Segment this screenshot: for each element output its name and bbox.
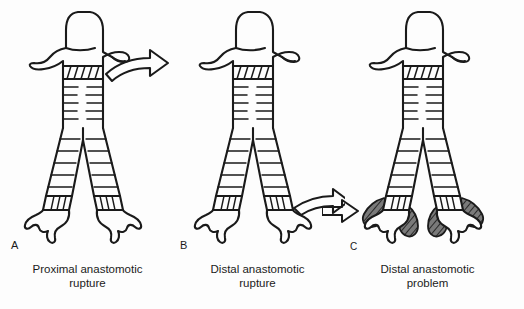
panel-a: A Proximal anastomotic rupture bbox=[0, 0, 175, 309]
cricoid-line bbox=[236, 48, 265, 50]
cricoid-line bbox=[66, 48, 95, 50]
cricoid-line bbox=[406, 48, 435, 50]
tracheal-rings bbox=[233, 87, 273, 119]
panel-b-caption-line2: rupture bbox=[170, 276, 345, 290]
larynx-cartilage bbox=[370, 12, 470, 69]
tracheal-rings bbox=[63, 87, 103, 119]
right-bronchus-inner bbox=[423, 140, 434, 196]
right-bronchus-outer bbox=[103, 128, 120, 196]
arrow-into-panel-c bbox=[322, 196, 362, 226]
proximal-anastomosis-sutures bbox=[67, 66, 99, 79]
panel-letter-b: B bbox=[180, 239, 187, 251]
left-bronchus-outer bbox=[216, 128, 233, 196]
arrow-head-right bbox=[322, 200, 358, 222]
panel-a-caption: Proximal anastomotic rupture bbox=[0, 262, 175, 290]
panel-b: B Distal anastomotic rupture bbox=[170, 0, 345, 309]
right-bronchus-outer bbox=[443, 128, 460, 196]
right-bronchial-stump bbox=[97, 210, 141, 243]
proximal-anastomosis-sutures bbox=[407, 66, 439, 79]
panel-letter-a: A bbox=[11, 239, 18, 251]
left-bronchial-stump bbox=[195, 210, 239, 243]
panel-letter-c: C bbox=[350, 241, 357, 252]
bottom-cropped-note bbox=[30, 297, 490, 306]
left-bronchus-outer bbox=[386, 128, 403, 196]
panel-b-caption: Distal anastomotic rupture bbox=[170, 262, 345, 290]
left-bronchus-inner bbox=[412, 128, 423, 196]
larynx-cartilage bbox=[200, 12, 300, 69]
panel-c: C Distal anastomotic problem bbox=[340, 0, 515, 309]
left-bronchus-inner bbox=[72, 128, 83, 196]
right-bronchus-inner bbox=[83, 140, 94, 196]
distal-anastomosis-right-sutures bbox=[100, 196, 115, 210]
left-bronchus-inner bbox=[242, 128, 253, 196]
right-bronchial-stump bbox=[267, 210, 311, 243]
tracheal-rings bbox=[403, 87, 443, 119]
arrow-proximal-rupture bbox=[106, 50, 168, 81]
panel-a-illustration bbox=[0, 0, 175, 255]
panel-a-caption-line2: rupture bbox=[0, 276, 175, 290]
panel-c-caption: Distal anastomotic problem bbox=[340, 262, 515, 290]
larynx-cartilage bbox=[30, 12, 130, 69]
distal-anastomosis-left-sutures bbox=[221, 196, 236, 210]
distal-anastomosis-right-sutures bbox=[270, 196, 285, 210]
panel-b-illustration bbox=[170, 0, 345, 255]
right-bronchus-outer bbox=[273, 128, 290, 196]
left-bronchus-outer bbox=[46, 128, 63, 196]
panel-c-caption-line1: Distal anastomotic bbox=[340, 262, 515, 276]
panel-a-caption-line1: Proximal anastomotic bbox=[0, 262, 175, 276]
panel-c-illustration bbox=[340, 0, 515, 255]
tracheal-stump bbox=[112, 57, 125, 61]
left-bronchial-stump bbox=[25, 210, 69, 243]
right-bronchus-inner bbox=[253, 140, 264, 196]
tracheal-stump bbox=[282, 57, 295, 61]
proximal-anastomosis-sutures bbox=[237, 66, 269, 79]
panel-b-caption-line1: Distal anastomotic bbox=[170, 262, 345, 276]
panel-c-caption-line2: problem bbox=[340, 276, 515, 290]
tracheal-stump bbox=[452, 57, 465, 61]
distal-anastomosis-left-sutures bbox=[51, 196, 66, 210]
figure-root: A Proximal anastomotic rupture bbox=[0, 0, 524, 309]
